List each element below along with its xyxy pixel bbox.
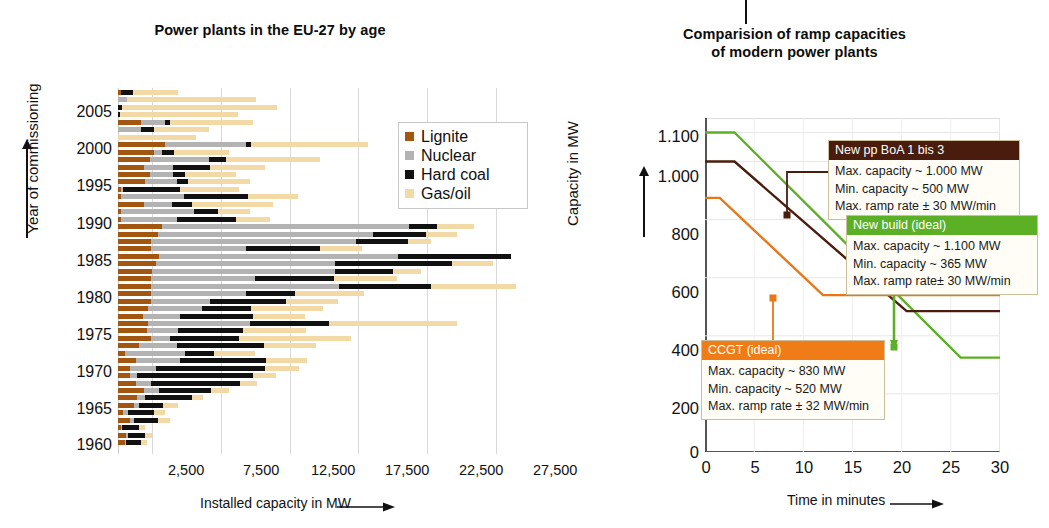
bar-segment-nuclear — [154, 150, 162, 155]
bar-row-1988 — [118, 232, 457, 237]
bar-segment-hard-coal — [178, 328, 243, 333]
bar-segment-lignite — [118, 358, 136, 363]
bar-row-1999 — [118, 150, 229, 155]
callout-boa-line-2: Min. capacity ~ 500 MW — [835, 181, 1013, 198]
bar-segment-gas-oil — [118, 135, 196, 140]
bar-segment-gas-oil — [192, 395, 203, 400]
bar-segment-gas-oil — [236, 217, 270, 222]
bar-row-2001 — [118, 135, 196, 140]
legend-swatch-hard-coal — [405, 170, 414, 179]
bar-segment-hard-coal — [141, 127, 153, 132]
bar-segment-nuclear — [137, 395, 145, 400]
x-tick-22500: 22,500 — [459, 462, 503, 478]
bar-segment-hard-coal — [172, 202, 193, 207]
bar-segment-lignite — [118, 418, 130, 423]
bar-segment-nuclear — [145, 179, 177, 184]
right-y-tick-400: 400 — [671, 341, 699, 360]
callout-new-build-line-1: Max. capacity ~ 1.100 MW — [853, 238, 1031, 255]
bar-segment-hard-coal — [335, 269, 393, 274]
callout-ccgt-header: CCGT (ideal) — [702, 341, 884, 360]
bar-segment-lignite — [118, 269, 152, 274]
right-x-tick-5: 5 — [750, 458, 759, 477]
bar-row-1983 — [118, 269, 421, 274]
bar-segment-hard-coal — [180, 314, 253, 319]
bar-row-2002 — [118, 127, 209, 132]
left-y-tick-labels: 2005 2000 1995 1990 1985 1980 1975 1970 … — [36, 0, 112, 528]
bar-row-1976 — [118, 321, 457, 326]
callout-ccgt[interactable]: CCGT (ideal) Max. capacity ~ 830 MW Min.… — [701, 340, 885, 420]
bar-segment-lignite — [118, 314, 143, 319]
bar-segment-nuclear — [143, 314, 180, 319]
bar-segment-gas-oil — [265, 366, 299, 371]
legend-item-hard-coal[interactable]: Hard coal — [405, 165, 521, 184]
right-x-tick-25: 25 — [942, 458, 960, 477]
bar-segment-gas-oil — [120, 112, 238, 117]
bar-row-1970 — [118, 366, 299, 371]
bar-segment-nuclear — [147, 328, 179, 333]
figure-root: Power plants in the EU-27 by age Year of… — [0, 0, 1049, 528]
bar-row-1962 — [118, 425, 145, 430]
bar-row-1969 — [118, 373, 276, 378]
bar-row-1972 — [118, 351, 255, 356]
bar-segment-hard-coal — [134, 418, 157, 423]
bar-segment-nuclear — [151, 299, 210, 304]
callout-boa-body: Max. capacity ~ 1.000 MW Min. capacity ~… — [829, 160, 1019, 219]
bar-segment-nuclear — [118, 97, 127, 102]
callout-ccgt-body: Max. capacity ~ 830 MW Min. capacity ~ 5… — [702, 360, 884, 419]
bar-segment-gas-oil — [154, 410, 165, 415]
right-x-tick-0: 0 — [701, 458, 710, 477]
bar-segment-hard-coal — [356, 239, 408, 244]
legend-item-gas-oil[interactable]: Gas/oil — [405, 184, 521, 203]
right-x-tick-15: 15 — [844, 458, 862, 477]
bar-segment-nuclear — [151, 239, 356, 244]
bar-segment-gas-oil — [248, 194, 297, 199]
callout-boa[interactable]: New pp BoA 1 bis 3 Max. capacity ~ 1.000… — [828, 140, 1020, 220]
callout-new-build-header: New build (ideal) — [847, 216, 1037, 235]
bar-segment-lignite — [118, 366, 130, 371]
callout-new-build[interactable]: New build (ideal) Max. capacity ~ 1.100 … — [846, 215, 1038, 295]
bar-segment-gas-oil — [188, 179, 250, 184]
bar-segment-hard-coal — [250, 321, 330, 326]
bar-row-1974 — [118, 336, 351, 341]
bar-row-2000 — [118, 142, 368, 147]
bar-segment-lignite — [118, 395, 137, 400]
bar-segment-nuclear — [162, 224, 409, 229]
bar-segment-gas-oil — [141, 440, 146, 445]
bar-row-1979 — [118, 299, 338, 304]
bar-segment-lignite — [118, 120, 141, 125]
bar-row-1992 — [118, 202, 273, 207]
right-x-tick-10: 10 — [795, 458, 813, 477]
bar-segment-hard-coal — [177, 179, 188, 184]
bar-segment-lignite — [118, 172, 150, 177]
bar-segment-gas-oil — [180, 187, 239, 192]
bar-segment-gas-oil — [185, 172, 236, 177]
bar-row-1991 — [118, 209, 250, 214]
bar-row-1987 — [118, 239, 431, 244]
bar-row-1978 — [118, 306, 323, 311]
legend-item-nuclear[interactable]: Nuclear — [405, 146, 521, 165]
bar-row-1961 — [118, 433, 152, 438]
bar-row-1981 — [118, 284, 516, 289]
bar-row-1994 — [118, 187, 239, 192]
left-chart-panel: Power plants in the EU-27 by age Year of… — [0, 0, 540, 528]
bar-segment-nuclear — [165, 142, 246, 147]
bar-row-1975 — [118, 328, 306, 333]
callout-boa-line-1: Max. capacity ~ 1.000 MW — [835, 163, 1013, 180]
bar-segment-gas-oil — [320, 246, 363, 251]
bar-segment-nuclear — [136, 381, 151, 386]
right-y-tick-1100: 1.100 — [658, 127, 699, 146]
legend-swatch-nuclear — [405, 151, 414, 160]
bar-segment-gas-oil — [286, 299, 338, 304]
bar-segment-hard-coal — [139, 403, 164, 408]
bar-segment-hard-coal — [170, 336, 239, 341]
right-x-tick-30: 30 — [991, 458, 1009, 477]
bar-segment-lignite — [118, 284, 151, 289]
bar-segment-gas-oil — [393, 269, 422, 274]
bar-row-1966 — [118, 395, 203, 400]
right-y-tick-600: 600 — [671, 283, 699, 302]
bar-segment-hard-coal — [177, 343, 264, 348]
legend-label-nuclear: Nuclear — [421, 148, 476, 164]
callout-ccgt-line-2: Min. capacity ~ 520 MW — [708, 381, 878, 398]
bar-segment-nuclear — [141, 120, 164, 125]
legend-item-lignite[interactable]: Lignite — [405, 127, 521, 146]
